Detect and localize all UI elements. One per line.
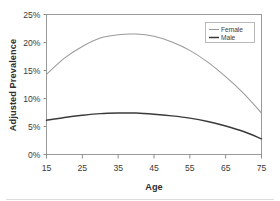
x-tick-label: 15 [42,163,52,173]
x-tick-label: 25 [78,163,88,173]
y-tick-label: 15% [23,66,41,76]
y-tick-label: 25% [23,10,41,20]
y-tick-label: 10% [23,94,41,104]
x-axis-title: Age [145,182,163,192]
y-tick-label: 5% [28,122,41,132]
legend-label-male: Male [221,34,236,41]
x-tick-label: 45 [149,163,159,173]
y-tick-label: 0% [28,150,41,160]
chart-legend: Female Male [206,23,255,43]
chart-figure: Adjusted Prevalence 0%5%10%15%20%25% 152… [0,0,280,201]
legend-label-female: Female [221,26,243,33]
x-tick-label: 35 [113,163,123,173]
y-tick-label: 20% [23,38,41,48]
x-tick-label: 75 [257,163,267,173]
y-axis-title: Adjusted Prevalence [8,39,18,131]
prevalence-by-age-line-chart: Adjusted Prevalence 0%5%10%15%20%25% 152… [0,0,280,201]
x-tick-label: 65 [221,163,231,173]
x-tick-label: 55 [185,163,195,173]
